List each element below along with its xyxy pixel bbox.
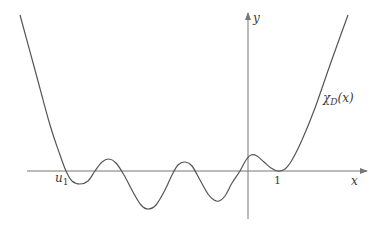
tick-label-one: 1 [274,175,281,186]
root-label-u: u [55,171,63,185]
root-label-sub: 1 [63,177,69,187]
curve-label-arg: (x) [338,91,354,105]
chi-curve [20,15,348,209]
root-label-u1: u1 [55,172,68,187]
curve-label-sub: D [330,97,337,107]
x-axis-label: x [351,175,358,187]
chart-plot-area [0,0,386,231]
curve-label-chi-d: χD(x) [323,92,354,107]
y-axis-label: y [253,12,260,24]
